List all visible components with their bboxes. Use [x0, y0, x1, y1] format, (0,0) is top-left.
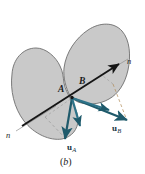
caption-close-paren: ) [68, 156, 71, 167]
figure-caption: (b) [60, 157, 72, 167]
label-velocity-a-subscript: A [72, 146, 76, 153]
label-velocity-a: uA [67, 143, 76, 154]
figure-container: A B n n uA uB (b) [0, 0, 145, 174]
label-point-b: B [79, 77, 85, 87]
label-velocity-b: uB [112, 124, 121, 135]
label-normal-right: n [127, 57, 131, 66]
label-velocity-b-subscript: B [117, 127, 121, 134]
contact-point-dot [70, 96, 73, 99]
label-normal-left: n [6, 131, 10, 140]
label-point-a: A [58, 85, 64, 95]
